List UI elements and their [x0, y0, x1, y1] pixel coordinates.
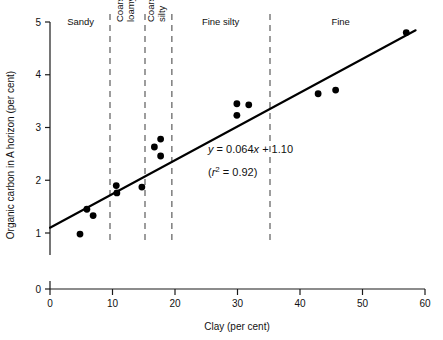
- equation-line: y = 0.064x + 1.10: [207, 143, 293, 155]
- region-label-rotated: Coarse: [114, 0, 125, 22]
- data-point: [138, 184, 145, 191]
- y-tick-label: 2: [35, 175, 41, 186]
- y-axis-title: Organic carbon in A horizon (per cent): [5, 71, 16, 239]
- y-tick-label: 1: [35, 228, 41, 239]
- x-tick-label: 60: [419, 298, 431, 309]
- x-tick-label: 20: [169, 298, 181, 309]
- data-point: [151, 144, 158, 151]
- region-label: Sandy: [67, 16, 94, 27]
- r2-value: = 0.92): [220, 166, 258, 178]
- scatter-plot: 012345 0102030405060 SandyCoarseloamyCoa…: [0, 0, 443, 340]
- data-point: [403, 29, 410, 36]
- region-label-rotated: Coarse: [145, 0, 156, 22]
- equation-intercept: + 1.10: [259, 143, 293, 155]
- region-label: Fine: [331, 16, 349, 27]
- data-point: [90, 212, 97, 219]
- equation-operator: = 0.064: [214, 143, 254, 155]
- x-tick-label: 40: [294, 298, 306, 309]
- chart-figure: 012345 0102030405060 SandyCoarseloamyCoa…: [0, 0, 443, 340]
- y-tick-label: 3: [35, 122, 41, 133]
- x-tick-label: 10: [107, 298, 119, 309]
- y-tick-label: 4: [35, 69, 41, 80]
- data-point: [332, 87, 339, 94]
- data-point: [113, 182, 120, 189]
- region-label-rotated: silty: [156, 5, 167, 22]
- data-point: [157, 153, 164, 160]
- data-point: [77, 231, 84, 238]
- region-label: Fine silty: [202, 16, 240, 27]
- region-label-rotated: loamy: [125, 0, 136, 22]
- y-tick-label: 5: [35, 17, 41, 28]
- data-point: [233, 100, 240, 107]
- x-tick-label: 50: [357, 298, 369, 309]
- data-point: [113, 190, 120, 197]
- data-point: [233, 112, 240, 119]
- data-point: [245, 101, 252, 108]
- y-tick-label: 0: [35, 284, 41, 295]
- x-axis-title: Clay (per cent): [204, 321, 270, 332]
- data-point: [315, 90, 322, 97]
- x-tick-label: 0: [47, 298, 53, 309]
- data-point: [83, 206, 90, 213]
- x-tick-label: 30: [232, 298, 244, 309]
- data-point: [157, 136, 164, 143]
